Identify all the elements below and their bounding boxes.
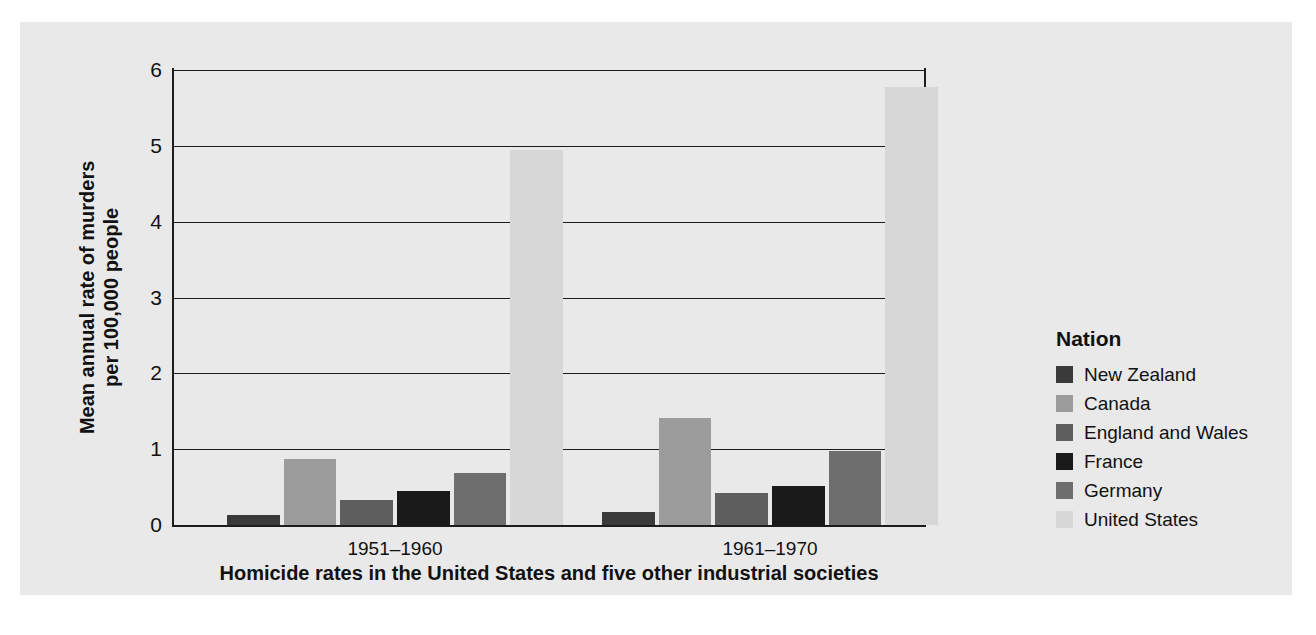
figure-panel: Mean annual rate of murders per 100,000 … — [20, 22, 1292, 595]
y-tick-label-1: 1 — [150, 437, 162, 461]
legend-label: England and Wales — [1084, 422, 1248, 444]
y-axis-title-line2: per 100,000 people — [100, 161, 124, 434]
gridline-6 — [172, 70, 926, 71]
legend: Nation New ZealandCanadaEngland and Wale… — [1056, 327, 1282, 534]
bar-canada-1951-1960 — [284, 459, 337, 525]
y-tick-label-5: 5 — [150, 134, 162, 158]
bar-canada-1961-1970 — [659, 418, 712, 525]
y-axis-title: Mean annual rate of murders per 100,000 … — [72, 68, 128, 527]
legend-items: New ZealandCanadaEngland and WalesFrance… — [1056, 360, 1282, 534]
figure-caption: Homicide rates in the United States and … — [172, 562, 926, 585]
bar-new-zealand-1961-1970 — [602, 512, 655, 525]
y-tick-label-6: 6 — [150, 58, 162, 82]
x-tick-label-0: 1951–1960 — [347, 538, 442, 560]
gridline-5 — [172, 146, 926, 147]
y-tick-label-2: 2 — [150, 361, 162, 385]
legend-item-new-zealand[interactable]: New Zealand — [1056, 360, 1282, 389]
x-axis-line — [172, 525, 926, 527]
legend-item-united-states[interactable]: United States — [1056, 505, 1282, 534]
bar-france-1961-1970 — [772, 486, 825, 525]
bar-england-and-wales-1951-1960 — [340, 500, 393, 525]
legend-swatch-icon — [1056, 395, 1073, 412]
legend-swatch-icon — [1056, 366, 1073, 383]
bar-united-states-1961-1970 — [885, 87, 938, 525]
legend-item-france[interactable]: France — [1056, 447, 1282, 476]
legend-item-germany[interactable]: Germany — [1056, 476, 1282, 505]
legend-label: France — [1084, 451, 1143, 473]
legend-label: Canada — [1084, 393, 1151, 415]
legend-swatch-icon — [1056, 511, 1073, 528]
y-tick-label-4: 4 — [150, 210, 162, 234]
bar-france-1951-1960 — [397, 491, 450, 525]
legend-swatch-icon — [1056, 424, 1073, 441]
bar-new-zealand-1951-1960 — [227, 515, 280, 525]
bar-united-states-1951-1960 — [510, 150, 563, 525]
y-tick-label-0: 0 — [150, 513, 162, 537]
y-axis-title-line1: Mean annual rate of murders — [76, 161, 100, 434]
legend-label: Germany — [1084, 480, 1162, 502]
y-tick-label-3: 3 — [150, 286, 162, 310]
legend-label: New Zealand — [1084, 364, 1196, 386]
legend-swatch-icon — [1056, 453, 1073, 470]
bar-germany-1961-1970 — [829, 451, 882, 525]
bar-germany-1951-1960 — [454, 473, 507, 525]
legend-label: United States — [1084, 509, 1198, 531]
legend-item-england-and-wales[interactable]: England and Wales — [1056, 418, 1282, 447]
plot-area: 0123456 1951–19601961–1970 — [172, 68, 926, 527]
legend-swatch-icon — [1056, 482, 1073, 499]
x-tick-label-1: 1961–1970 — [722, 538, 817, 560]
legend-item-canada[interactable]: Canada — [1056, 389, 1282, 418]
bar-england-and-wales-1961-1970 — [715, 493, 768, 525]
legend-title: Nation — [1056, 327, 1282, 351]
